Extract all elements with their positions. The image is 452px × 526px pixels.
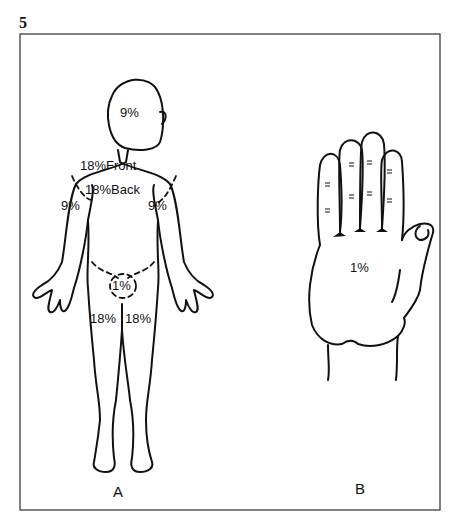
left-arm-percent: 9% (148, 198, 167, 213)
figure-frame (20, 34, 440, 510)
panel-b-label: B (355, 480, 365, 497)
finger-web (354, 228, 366, 232)
finger-web (376, 228, 388, 232)
trunk-front-percent: 18%Front (80, 158, 137, 173)
left-leg-percent: 18% (125, 311, 151, 326)
right-arm-percent: 9% (61, 198, 80, 213)
hand-percent: 1% (350, 260, 369, 275)
finger-web (333, 232, 346, 237)
trunk-back-percent: 18%Back (85, 182, 140, 197)
hand-figure (309, 132, 433, 380)
perineum-percent: 1% (112, 278, 131, 293)
body-figure (33, 80, 213, 472)
rule-of-nines-diagram: 9% 18%Front 18%Back 9% 9% 1% 18% 18% A 1… (0, 0, 452, 526)
panel-a-label: A (113, 483, 123, 500)
right-leg-percent: 18% (90, 311, 116, 326)
head-percent: 9% (120, 105, 139, 120)
